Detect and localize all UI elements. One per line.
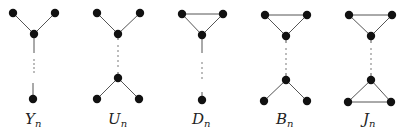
edge — [286, 15, 307, 36]
edge — [286, 80, 307, 101]
ellipsis-dot — [201, 72, 203, 74]
vertex — [93, 95, 101, 103]
ellipsis-dot — [370, 53, 372, 55]
ellipsis-dot — [370, 48, 372, 50]
edge — [348, 80, 371, 102]
vertex — [29, 95, 37, 103]
vertex — [345, 11, 353, 19]
graph-j-n — [344, 11, 396, 106]
ellipsis-dot — [33, 71, 35, 73]
vertex — [178, 10, 186, 18]
ellipsis-dot — [117, 45, 119, 47]
ellipsis-dot — [117, 50, 119, 52]
edge — [202, 14, 223, 35]
edge — [349, 15, 371, 36]
ellipsis-dot — [33, 63, 35, 65]
vertex — [388, 11, 396, 19]
label-j-n: Jn — [360, 110, 375, 129]
graph-d-n — [178, 10, 227, 104]
ellipsis-dot — [201, 77, 203, 79]
ellipsis-dot — [285, 48, 287, 50]
ellipsis-dot — [370, 58, 372, 60]
ellipsis-dot — [201, 62, 203, 64]
ellipsis-dot — [285, 68, 287, 70]
vertex — [114, 30, 122, 38]
vertex — [344, 98, 352, 106]
vertex — [282, 76, 290, 84]
vertex — [198, 96, 206, 104]
vertex — [219, 10, 227, 18]
vertex — [367, 32, 375, 40]
edge — [34, 13, 55, 34]
edge — [265, 15, 286, 36]
vertex — [260, 97, 268, 105]
label-d-n: Dn — [191, 110, 210, 129]
graph-family-figure: Yn Un Dn Bn Jn — [0, 0, 405, 136]
ellipsis-dot — [285, 58, 287, 60]
graph-y-n — [9, 9, 59, 103]
vertex — [136, 9, 144, 17]
ellipsis-dot — [370, 68, 372, 70]
edge — [264, 80, 286, 101]
vertex — [282, 32, 290, 40]
edge — [371, 15, 392, 36]
vertex — [198, 31, 206, 39]
vertex — [303, 11, 311, 19]
vertex — [51, 9, 59, 17]
vertex — [303, 97, 311, 105]
edge — [182, 14, 202, 35]
ellipsis-dot — [117, 60, 119, 62]
vertex — [114, 74, 122, 82]
vertex — [367, 76, 375, 84]
edge — [371, 80, 391, 102]
ellipsis-dot — [117, 65, 119, 67]
ellipsis-dot — [117, 55, 119, 57]
ellipsis-dot — [33, 59, 35, 61]
vertex — [9, 9, 17, 17]
ellipsis-dot — [33, 67, 35, 69]
ellipsis-dot — [285, 63, 287, 65]
edge — [118, 13, 140, 34]
edge — [97, 78, 118, 99]
edge — [97, 13, 118, 34]
diagram-svg: Yn Un Dn Bn Jn — [0, 0, 405, 136]
label-b-n: Bn — [275, 110, 293, 129]
vertex — [93, 9, 101, 17]
label-y-n: Yn — [25, 110, 41, 129]
vertex — [30, 30, 38, 38]
vertex — [135, 95, 143, 103]
label-u-n: Un — [108, 110, 127, 129]
ellipsis-dot — [201, 67, 203, 69]
ellipsis-dot — [370, 63, 372, 65]
ellipsis-dot — [285, 53, 287, 55]
edge — [118, 78, 139, 99]
vertex — [261, 11, 269, 19]
graph-b-n — [260, 11, 311, 105]
edge — [13, 13, 34, 34]
vertex — [387, 98, 395, 106]
graph-u-n — [93, 9, 144, 103]
